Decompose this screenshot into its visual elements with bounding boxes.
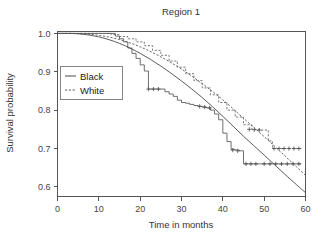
x-tick-label: 0 <box>55 204 60 214</box>
legend-label-white: White <box>80 85 104 96</box>
series-layer <box>58 33 306 192</box>
x-tick-label: 60 <box>300 204 310 214</box>
y-axis-title: Survival probability <box>4 73 15 153</box>
x-tick-label: 40 <box>218 204 228 214</box>
y-tick-label: 0.9 <box>38 67 51 77</box>
censor-marks-layer <box>146 87 301 166</box>
y-tick-label: 0.8 <box>38 105 51 115</box>
x-tick-label: 30 <box>176 204 186 214</box>
series-black-smooth <box>58 33 306 192</box>
chart-legend: Black White <box>61 67 123 100</box>
legend-label-black: Black <box>80 71 103 82</box>
x-axis-title: Time in months <box>149 219 214 230</box>
x-tick-label: 20 <box>135 204 145 214</box>
series-white-smooth <box>58 33 306 175</box>
x-tick-label: 50 <box>259 204 269 214</box>
x-axis-ticks: 0102030405060 <box>55 197 311 214</box>
plot-border <box>58 32 306 197</box>
survival-chart-figure: Region 1 0102030405060 0.60.70.80.91.0 T… <box>0 0 321 235</box>
x-tick-label: 10 <box>94 204 104 214</box>
plot-frame <box>58 32 306 197</box>
survival-chart-svg: Region 1 0102030405060 0.60.70.80.91.0 T… <box>0 0 321 235</box>
y-tick-label: 1.0 <box>38 29 51 39</box>
y-tick-label: 0.6 <box>38 182 51 192</box>
y-tick-label: 0.7 <box>38 144 51 154</box>
y-axis-ticks: 0.60.70.80.91.0 <box>38 29 58 192</box>
chart-title: Region 1 <box>162 6 200 17</box>
